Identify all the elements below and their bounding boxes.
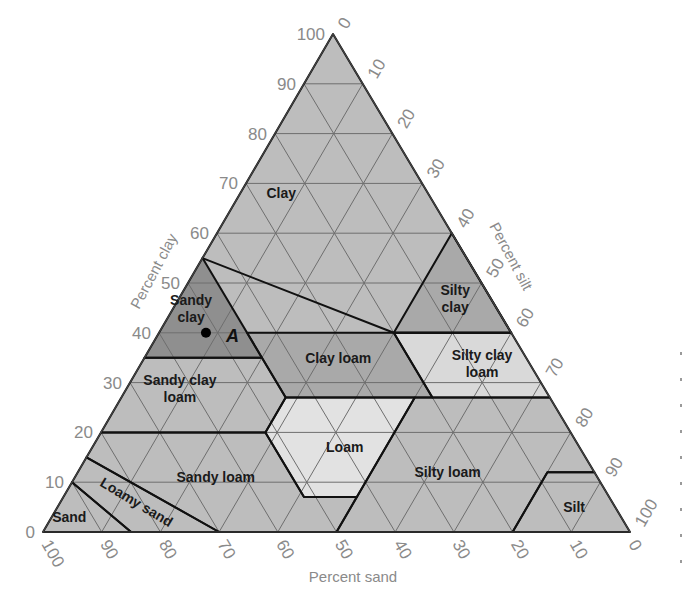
tick-sand-20: 20 — [507, 537, 533, 563]
tick-silt-80: 80 — [572, 405, 598, 431]
tick-sand-100: 100 — [38, 537, 69, 571]
tick-sand-80: 80 — [155, 537, 181, 563]
tick-silt-90: 90 — [601, 454, 627, 480]
region-label-loam: Loam — [326, 439, 363, 455]
tick-sand-30: 30 — [448, 537, 474, 563]
tick-sand-60: 60 — [272, 537, 298, 563]
region-label-sandy-loam: Sandy loam — [176, 469, 255, 485]
tick-clay-0: 0 — [26, 523, 35, 542]
tick-clay-50: 50 — [161, 274, 180, 293]
region-label-sand: Sand — [52, 509, 86, 525]
data-point-a — [201, 328, 211, 338]
tick-sand-0: 0 — [625, 537, 646, 555]
tick-sand-50: 50 — [331, 537, 357, 563]
tick-sand-70: 70 — [214, 537, 240, 563]
tick-clay-90: 90 — [277, 75, 296, 94]
tick-clay-70: 70 — [219, 174, 238, 193]
tick-silt-30: 30 — [423, 156, 449, 182]
tick-silt-100: 100 — [631, 496, 662, 530]
tick-clay-60: 60 — [190, 224, 209, 243]
axis-title-sand: Percent sand — [309, 568, 397, 585]
tick-silt-60: 60 — [512, 305, 538, 331]
tick-sand-10: 10 — [566, 537, 592, 563]
region-label-silty-clay: Siltyclay — [440, 282, 470, 315]
soil-texture-triangle: ClaySandyclaySiltyclayClay loamSilty cla… — [0, 0, 682, 603]
tick-sand-40: 40 — [390, 537, 416, 563]
data-point-label-a: A — [225, 326, 239, 346]
tick-silt-70: 70 — [542, 355, 568, 381]
tick-clay-20: 20 — [74, 423, 93, 442]
tick-silt-0: 0 — [334, 14, 355, 32]
tick-silt-10: 10 — [364, 56, 390, 82]
tick-clay-10: 10 — [45, 473, 64, 492]
tick-clay-80: 80 — [248, 125, 267, 144]
tick-silt-40: 40 — [453, 205, 479, 231]
region-label-silt: Silt — [563, 499, 585, 515]
tick-clay-100: 100 — [297, 25, 325, 44]
region-label-clay-loam: Clay loam — [305, 350, 371, 366]
tick-clay-30: 30 — [103, 374, 122, 393]
tick-sand-90: 90 — [96, 537, 122, 563]
tick-silt-20: 20 — [393, 106, 419, 132]
region-label-silty-loam: Silty loam — [415, 464, 481, 480]
region-label-clay: Clay — [267, 185, 297, 201]
tick-clay-40: 40 — [132, 324, 151, 343]
